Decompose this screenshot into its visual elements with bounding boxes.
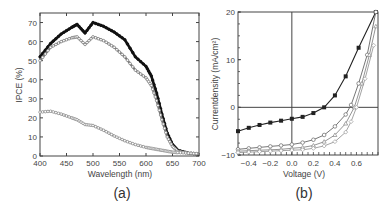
chart-b-series-line xyxy=(238,26,376,151)
chart-b-ytick-label: 10 xyxy=(226,56,235,65)
chart-a-ylabel: IPCE (%) xyxy=(14,67,24,103)
chart-b-xlabel: Voltage (V) xyxy=(283,169,325,179)
chart-a-xtick-label: 400 xyxy=(33,159,47,168)
chart-b-xtick-label: −0.2 xyxy=(262,159,278,168)
chart-a-ytick-label: 30 xyxy=(28,95,37,104)
chart-b-ytick-label: −10 xyxy=(221,151,235,160)
chart-a-ytick-label: 20 xyxy=(28,114,37,123)
chart-a-xtick-label: 550 xyxy=(113,159,127,168)
chart-a-ytick-label: 50 xyxy=(28,57,37,66)
panel-label-a: (a) xyxy=(113,185,130,201)
panel-label-b: (b) xyxy=(295,185,312,201)
chart-b-ytick-label: 0 xyxy=(231,103,236,112)
chart-a-xlabel: Wavelength (nm) xyxy=(88,169,153,179)
chart-b-series-line xyxy=(238,12,376,149)
chart-a-xtick-label: 650 xyxy=(166,159,180,168)
chart-b-series-line xyxy=(238,12,376,131)
chart-a-ytick-label: 40 xyxy=(28,76,37,85)
chart-a-xtick-label: 600 xyxy=(139,159,153,168)
chart-b-jv: −1001020 −0.4−0.20.00.20.40.6 Currentden… xyxy=(210,8,378,201)
chart-b-xtick-label: −0.4 xyxy=(241,159,257,168)
chart-b-ytick-label: 20 xyxy=(226,8,235,17)
chart-b-xtick-label: 0.0 xyxy=(286,159,298,168)
chart-a-ytick-label: 70 xyxy=(28,19,37,28)
chart-b-xtick-label: 0.4 xyxy=(329,159,341,168)
chart-a-ytick-label: 60 xyxy=(28,38,37,47)
chart-a-xtick-label: 500 xyxy=(86,159,100,168)
chart-a-ipce: 010203040506070 400450500550600650700 IP… xyxy=(14,13,206,201)
chart-a-xtick-label: 450 xyxy=(60,159,74,168)
chart-b-xtick-label: 0.6 xyxy=(351,159,363,168)
chart-a-ytick-label: 10 xyxy=(28,133,37,142)
chart-b-series xyxy=(236,10,378,155)
chart-a-xtick-label: 700 xyxy=(192,159,206,168)
chart-b-ylabel: Currentdensity (mA/cm²) xyxy=(210,38,220,131)
chart-a-series xyxy=(39,21,199,155)
figure: 010203040506070 400450500550600650700 IP… xyxy=(0,0,391,210)
chart-b-x-ticks: −0.4−0.20.00.20.40.6 xyxy=(238,152,378,168)
chart-b-xtick-label: 0.2 xyxy=(308,159,320,168)
chart-a-series-line xyxy=(40,37,199,154)
